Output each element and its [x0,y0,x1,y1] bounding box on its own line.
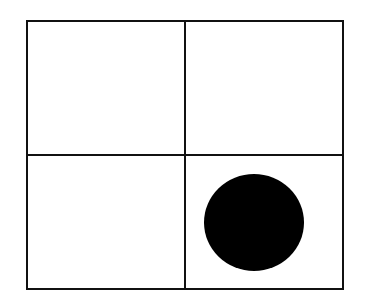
filled-circle-icon [204,174,304,271]
grid-horizontal-divider [26,154,344,156]
